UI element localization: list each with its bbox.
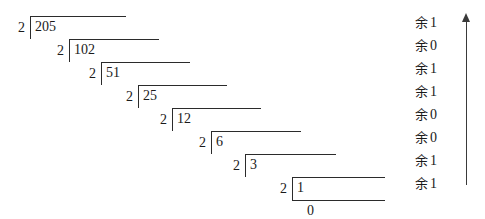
remainder-value: 1 <box>430 176 437 191</box>
dividend-value: 12 <box>177 108 191 129</box>
remainder-row: 余1 <box>415 14 437 32</box>
division-step-row: 2 51 <box>101 62 190 85</box>
division-step-row: 2 1 <box>292 177 385 200</box>
remainder-value: 1 <box>430 153 437 168</box>
remainder-row: 余0 <box>415 106 437 124</box>
divider-vertical-line <box>245 154 246 177</box>
remainder-row: 余0 <box>415 129 437 147</box>
dividend-value: 6 <box>216 131 223 152</box>
dividend-value: 205 <box>35 16 56 37</box>
remainder-value: 1 <box>430 61 437 76</box>
remainder-row: 余0 <box>415 37 437 55</box>
divider-horizontal-line <box>245 154 336 155</box>
divisor-value: 2 <box>280 177 287 200</box>
divisor-value: 2 <box>160 108 167 131</box>
remainder-label: 余 <box>415 61 428 76</box>
division-step-row: 2 25 <box>138 85 227 108</box>
dividend-value: 51 <box>106 62 120 83</box>
divider-vertical-line <box>292 177 293 200</box>
dividend-value: 25 <box>143 85 157 106</box>
remainder-value: 0 <box>430 38 437 53</box>
dividend-value: 3 <box>250 154 257 175</box>
remainder-value: 0 <box>430 130 437 145</box>
remainder-label: 余 <box>415 107 428 122</box>
remainder-value: 1 <box>430 15 437 30</box>
remainder-label: 余 <box>415 176 428 191</box>
division-ladder-diagram: 2 205 2 102 2 51 2 25 2 12 2 6 2 3 <box>0 0 485 219</box>
divider-vertical-line <box>138 85 139 108</box>
remainder-label: 余 <box>415 130 428 145</box>
division-step-row: 2 12 <box>172 108 261 131</box>
remainder-label: 余 <box>415 15 428 30</box>
divisor-value: 2 <box>126 85 133 108</box>
divisor-value: 2 <box>199 131 206 154</box>
final-quotient-value: 0 <box>307 201 314 219</box>
division-step-row: 2 205 <box>30 16 126 39</box>
remainder-row: 余1 <box>415 175 437 193</box>
arrow-shaft <box>466 21 467 185</box>
final-quotient-row: 0 <box>292 200 385 219</box>
remainder-label: 余 <box>415 84 428 99</box>
divisor-value: 2 <box>18 16 25 39</box>
divider-horizontal-line <box>211 131 301 132</box>
divisor-value: 2 <box>233 154 240 177</box>
divider-vertical-line <box>30 16 31 39</box>
divisor-value: 2 <box>57 39 64 62</box>
remainder-row: 余1 <box>415 83 437 101</box>
remainder-row: 余1 <box>415 152 437 170</box>
divider-vertical-line <box>211 131 212 154</box>
division-step-row: 2 3 <box>245 154 336 177</box>
division-step-row: 2 102 <box>69 39 159 62</box>
dividend-value: 102 <box>74 39 95 60</box>
division-step-row: 2 6 <box>211 131 301 154</box>
remainder-value: 0 <box>430 107 437 122</box>
remainder-label: 余 <box>415 38 428 53</box>
divider-vertical-line <box>69 39 70 62</box>
dividend-value: 1 <box>297 177 304 198</box>
remainder-value: 1 <box>430 84 437 99</box>
divider-horizontal-line <box>292 177 385 178</box>
remainder-label: 余 <box>415 153 428 168</box>
divider-vertical-line <box>101 62 102 85</box>
final-horizontal-line <box>292 200 385 201</box>
divisor-value: 2 <box>89 62 96 85</box>
remainder-row: 余1 <box>415 60 437 78</box>
divider-vertical-line <box>172 108 173 131</box>
